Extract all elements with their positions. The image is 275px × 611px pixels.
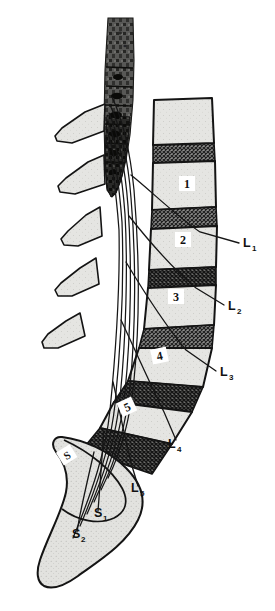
nerve-label-l2-letter: L bbox=[228, 299, 236, 313]
nerve-label-l4-letter: L bbox=[168, 437, 176, 451]
nerve-label-l4-subscript: 4 bbox=[177, 445, 182, 454]
nerve-label-s2-letter: S bbox=[72, 527, 80, 541]
nerve-label-l1-letter: L bbox=[243, 236, 251, 250]
vertebral-body-4 bbox=[128, 348, 212, 387]
spine-diagram-canvas: 1 2 3 4 5 S L 1 L 2 bbox=[0, 0, 275, 611]
vertebral-body-top bbox=[153, 98, 214, 145]
vertebra-label-3: 3 bbox=[168, 289, 184, 304]
nerve-label-s1-letter: S bbox=[94, 506, 102, 520]
nerve-label-l2-subscript: 2 bbox=[237, 307, 242, 316]
nerve-label-l5-subscript: 5 bbox=[140, 489, 145, 498]
spine-diagram-figure: 1 2 3 4 5 S L 1 L 2 bbox=[0, 0, 275, 611]
vertebra-number-1: 1 bbox=[184, 177, 190, 191]
disc-l3-l4 bbox=[139, 325, 214, 348]
nerve-label-l5-letter: L bbox=[131, 481, 139, 495]
vertebra-label-1: 1 bbox=[179, 176, 195, 191]
disc-t12-l1 bbox=[153, 143, 215, 163]
nerve-label-l3-subscript: 3 bbox=[229, 373, 234, 382]
nerve-label-s1-subscript: 1 bbox=[103, 514, 108, 523]
nerve-label-l3-letter: L bbox=[220, 365, 228, 379]
nerve-label-l1-subscript: 1 bbox=[252, 244, 257, 253]
nerve-label-s2-subscript: 2 bbox=[81, 535, 86, 544]
vertebra-number-2: 2 bbox=[180, 233, 186, 247]
vertebra-label-2: 2 bbox=[175, 232, 191, 247]
vertebra-number-3: 3 bbox=[173, 290, 179, 304]
